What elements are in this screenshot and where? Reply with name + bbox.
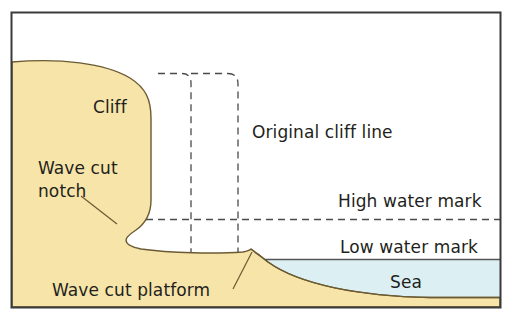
- label-wave-cut-notch-line2: notch: [38, 181, 86, 201]
- label-high-water-mark: High water mark: [338, 191, 482, 211]
- label-original-cliff-line: Original cliff line: [252, 122, 393, 142]
- label-wave-cut-platform: Wave cut platform: [52, 280, 210, 300]
- label-low-water-mark: Low water mark: [340, 237, 478, 257]
- label-cliff: Cliff: [93, 97, 128, 117]
- label-sea: Sea: [390, 272, 422, 292]
- coastal-erosion-diagram: Cliff Wave cut notch Wave cut platform O…: [0, 0, 512, 320]
- label-wave-cut-notch-line1: Wave cut: [38, 158, 118, 178]
- diagram-canvas: Cliff Wave cut notch Wave cut platform O…: [0, 0, 512, 320]
